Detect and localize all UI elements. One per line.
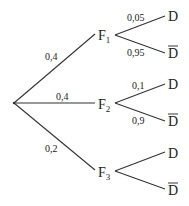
prob-label-f1-dbar: 0,95 <box>127 47 145 58</box>
probability-tree: 0,4F10,4F20,2F30,05D0,95D0,1D0,9DDD <box>0 0 189 206</box>
prob-label-f1: 0,4 <box>45 51 58 62</box>
branches <box>14 16 165 189</box>
node-f3-d: D <box>168 146 178 161</box>
node-f1: F1 <box>98 28 110 45</box>
branch-f3-dbar <box>115 171 165 189</box>
branch-root-f1 <box>14 34 95 103</box>
prob-label-f1-d: 0,05 <box>127 12 145 23</box>
node-f2: F2 <box>98 97 110 114</box>
branch-root-f3 <box>14 103 95 170</box>
prob-label-f2: 0,4 <box>56 91 69 102</box>
node-f2-d: D <box>168 77 178 92</box>
prob-label-f2-dbar: 0,9 <box>132 115 145 126</box>
branch-f3-d <box>115 152 165 171</box>
node-f1-dbar: D <box>168 46 178 61</box>
node-f3: F3 <box>98 165 111 182</box>
prob-label-f2-d: 0,1 <box>132 80 145 91</box>
node-f2-dbar: D <box>168 114 178 129</box>
node-f1-d: D <box>168 9 178 24</box>
node-f3-dbar: D <box>168 183 178 198</box>
prob-label-f3: 0,2 <box>45 143 58 154</box>
